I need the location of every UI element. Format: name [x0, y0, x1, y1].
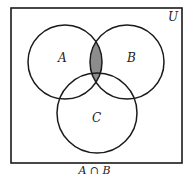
set-c-label: C: [92, 112, 101, 124]
set-a-label: A: [58, 52, 67, 64]
universe-label: U: [168, 11, 178, 23]
set-b-label: B: [127, 52, 136, 64]
diagram-caption: A ∩ B: [0, 164, 189, 177]
venn-diagram: [0, 0, 189, 179]
